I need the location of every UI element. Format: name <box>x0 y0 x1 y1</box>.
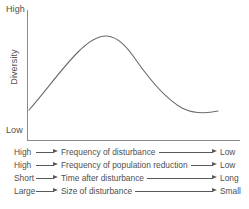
gradient-right-label: Low <box>217 160 249 170</box>
gradient-left-label: Short <box>0 173 36 183</box>
diversity-curve <box>29 36 218 113</box>
gradient-axis-label: Frequency of disturbance <box>58 147 159 157</box>
gradient-arrow-right <box>135 187 217 195</box>
gradient-arrow-right <box>147 174 217 182</box>
y-axis-tick-low: Low <box>6 125 23 135</box>
gradient-left-label: Large <box>0 186 36 196</box>
gradient-axis-label: Time after disturbance <box>58 173 147 183</box>
gradient-arrow-right <box>159 148 217 156</box>
gradient-arrow-left <box>36 174 58 182</box>
gradient-arrow-right <box>191 161 217 169</box>
plot-area: High Diversity Low <box>0 0 249 145</box>
gradient-arrow-left <box>36 187 58 195</box>
y-axis-title: Diversity <box>9 37 19 97</box>
gradient-arrow-left <box>36 161 58 169</box>
gradient-left-label: High <box>0 160 36 170</box>
diversity-disturbance-figure: High Diversity Low High Frequency of dis… <box>0 0 249 209</box>
gradient-right-label: Small <box>217 186 249 196</box>
gradient-axis-row: High Frequency of population reduction L… <box>0 158 249 171</box>
gradient-axis-label: Size of disturbance <box>58 186 135 196</box>
diversity-curve-plot <box>0 0 249 145</box>
gradient-left-label: High <box>0 147 36 157</box>
gradient-axis-row: High Frequency of disturbance Low <box>0 145 249 158</box>
y-axis-tick-high: High <box>6 4 25 14</box>
gradient-axis-label: Frequency of population reduction <box>58 160 191 170</box>
gradient-right-label: Long <box>217 173 249 183</box>
gradient-axis-row: Short Time after disturbance Long <box>0 171 249 184</box>
gradient-arrow-left <box>36 148 58 156</box>
gradient-right-label: Low <box>217 147 249 157</box>
gradient-axis-row: Large Size of disturbance Small <box>0 184 249 197</box>
gradient-axes-group: High Frequency of disturbance Low High F… <box>0 145 249 209</box>
